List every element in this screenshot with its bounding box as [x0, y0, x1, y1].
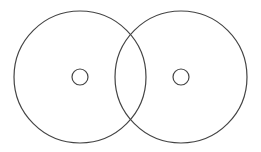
right-disk-center-hole [173, 69, 189, 85]
overlapping-disks-diagram [0, 0, 261, 152]
left-disk-center-hole [72, 69, 88, 85]
left-disk-outer-circle [14, 11, 146, 143]
right-disk [115, 11, 247, 143]
left-disk [14, 11, 146, 143]
right-disk-outer-circle [115, 11, 247, 143]
